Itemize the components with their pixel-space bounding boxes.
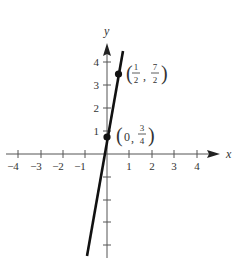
svg-text:3: 3	[140, 123, 145, 133]
y-tick-label: 2	[94, 102, 100, 114]
svg-text:(: (	[126, 62, 133, 85]
svg-text:(: (	[116, 124, 123, 147]
point-1-2-7-2	[115, 70, 122, 77]
y-tick-label: 4	[94, 56, 100, 68]
y-axis-label: y	[103, 24, 110, 38]
x-tick-label: 4	[194, 160, 200, 172]
x-tick-label: 1	[126, 160, 132, 172]
svg-text:1: 1	[134, 62, 139, 72]
svg-text:,: ,	[131, 131, 134, 145]
svg-text:0: 0	[124, 130, 130, 144]
x-tick-label: −3	[30, 160, 42, 172]
svg-text:2: 2	[153, 75, 158, 85]
svg-text:7: 7	[153, 62, 158, 72]
svg-text:2: 2	[134, 75, 139, 85]
point-label-1-2-7-2: ( 1 2 , 7 2 )	[126, 62, 168, 85]
y-tick-label: 1	[94, 125, 100, 137]
svg-text:,: ,	[143, 69, 146, 83]
x-tick-label: 3	[171, 160, 177, 172]
point-0-3-4	[103, 133, 110, 140]
x-tick-label: −2	[52, 160, 64, 172]
point-label-0-3-4: ( 0 , 3 4 )	[116, 123, 155, 147]
svg-text:4: 4	[140, 136, 145, 146]
graph-plot: x y −4 −3 −2 −1 1 2 3 4 4 3 2 1	[0, 0, 238, 260]
x-axis-label: x	[225, 147, 232, 161]
x-tick-label: −4	[7, 160, 19, 172]
x-tick-label: 2	[149, 160, 155, 172]
svg-text:): )	[148, 124, 155, 147]
x-tick-label: −1	[74, 160, 86, 172]
y-tick-label: 3	[94, 79, 100, 91]
svg-text:): )	[161, 62, 168, 85]
y-tick-labels: 4 3 2 1	[94, 56, 100, 137]
